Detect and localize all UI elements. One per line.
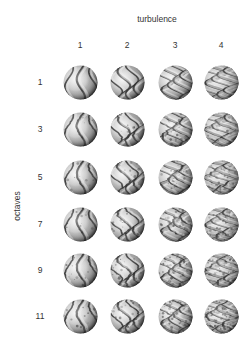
marble-sphere (204, 207, 239, 242)
marble-sphere (204, 299, 239, 334)
y-axis-label: octaves (12, 186, 24, 226)
marble-sphere (204, 112, 239, 147)
marble-sphere (158, 65, 193, 100)
column-label: 2 (117, 40, 137, 50)
marble-sphere (63, 112, 98, 147)
marble-sphere (110, 299, 145, 334)
marble-sphere (204, 253, 239, 288)
row-label: 11 (30, 311, 50, 321)
figure-title: turbulence (117, 14, 197, 24)
column-label: 3 (165, 40, 185, 50)
marble-sphere (158, 160, 193, 195)
row-label: 9 (30, 265, 50, 275)
row-label: 7 (30, 219, 50, 229)
marble-sphere (110, 160, 145, 195)
marble-sphere (63, 160, 98, 195)
marble-sphere (158, 299, 193, 334)
marble-sphere (63, 207, 98, 242)
marble-sphere (110, 207, 145, 242)
marble-sphere (204, 65, 239, 100)
marble-sphere (158, 253, 193, 288)
column-label: 4 (211, 40, 231, 50)
marble-sphere (204, 160, 239, 195)
marble-sphere (110, 112, 145, 147)
marble-sphere (63, 65, 98, 100)
marble-sphere (63, 299, 98, 334)
column-label: 1 (70, 40, 90, 50)
row-label: 1 (30, 77, 50, 87)
marble-sphere (110, 65, 145, 100)
row-label: 3 (30, 124, 50, 134)
row-label: 5 (30, 172, 50, 182)
marble-sphere (110, 253, 145, 288)
marble-sphere (63, 253, 98, 288)
marble-sphere (158, 112, 193, 147)
marble-sphere (158, 207, 193, 242)
